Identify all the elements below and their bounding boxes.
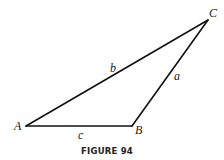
- vertex-label-c: C: [209, 6, 218, 20]
- triangle-edges: [26, 20, 208, 126]
- side-label-c: c: [78, 128, 84, 142]
- vertex-label-a: A: [13, 119, 22, 133]
- side-b-line: [26, 20, 208, 126]
- triangle-figure: A B C a b c FIGURE 94: [0, 0, 224, 160]
- side-labels: a b c: [78, 61, 180, 142]
- figure-caption: FIGURE 94: [81, 146, 133, 156]
- side-label-a: a: [174, 69, 180, 83]
- side-label-b: b: [110, 61, 116, 75]
- side-a-line: [132, 20, 208, 126]
- vertex-label-b: B: [135, 123, 143, 137]
